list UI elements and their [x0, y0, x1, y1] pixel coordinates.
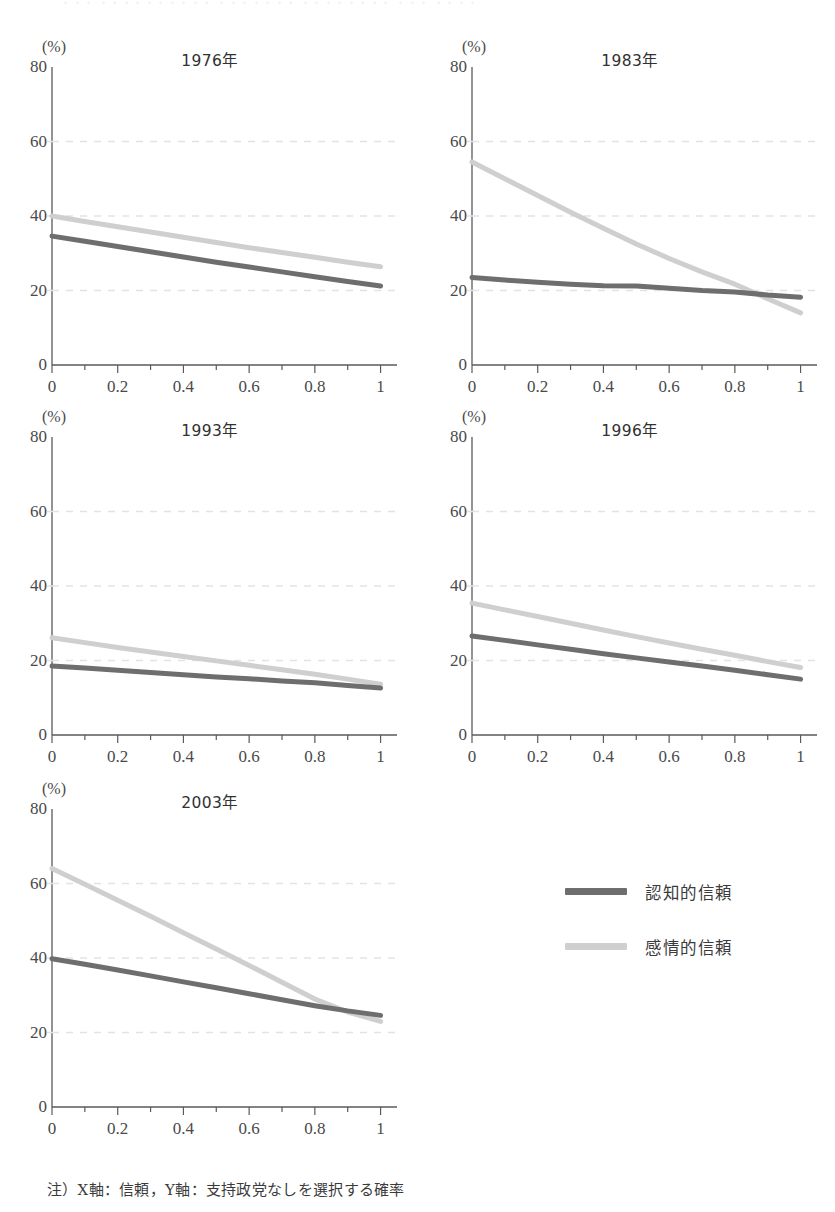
x-tick-label-0.2: 0.2	[107, 1119, 128, 1139]
y-tick-label-60: 60	[30, 501, 47, 521]
x-tick-label-1: 1	[796, 747, 805, 767]
y-tick-label-40: 40	[30, 576, 47, 596]
y-tick-label-0: 0	[39, 1097, 48, 1117]
x-tick-label-0.6: 0.6	[239, 1119, 260, 1139]
plot-svg	[52, 809, 397, 1107]
y-tick-label-0: 0	[459, 725, 468, 745]
y-tick-label-60: 60	[450, 501, 467, 521]
x-tick-label-0.8: 0.8	[724, 747, 745, 767]
y-tick-label-60: 60	[30, 873, 47, 893]
y-tick-label-40: 40	[450, 576, 467, 596]
chart-legend: 認知的信頼 感情的信頼	[565, 878, 733, 988]
page-top-bleed-text: ・・・ ・・・・・・・・・・ ・・・・・・・ ・・・・・・・・ ・・・ ・・・・	[60, 0, 760, 6]
x-tick-label-0.6: 0.6	[659, 747, 680, 767]
y-tick-label-80: 80	[450, 427, 467, 447]
plot-svg	[52, 67, 397, 365]
legend-item-affective-trust: 感情的信頼	[565, 933, 733, 960]
x-tick-label-0.4: 0.4	[173, 1119, 194, 1139]
x-tick-label-1: 1	[376, 1119, 385, 1139]
figure-page: ・・・ ・・・・・・・・・・ ・・・・・・・ ・・・・・・・・ ・・・ ・・・・…	[0, 0, 835, 1212]
plot-area: 02040608000.20.40.60.81	[472, 437, 817, 735]
plot-svg	[472, 67, 817, 365]
y-tick-label-20: 20	[30, 1022, 47, 1042]
x-tick-label-0: 0	[468, 747, 477, 767]
data-line-感情的信頼	[52, 216, 381, 267]
chart-panel-1993年: (%)1993年02040608000.20.40.60.81	[0, 380, 420, 750]
legend-label-affective-trust: 感情的信頼	[645, 935, 733, 959]
y-tick-label-20: 20	[450, 650, 467, 670]
y-tick-label-20: 20	[30, 650, 47, 670]
data-line-認知的信頼	[472, 277, 801, 297]
x-tick-label-0.8: 0.8	[304, 1119, 325, 1139]
data-line-認知的信頼	[52, 959, 381, 1016]
y-tick-label-40: 40	[30, 948, 47, 968]
plot-area: 02040608000.20.40.60.81	[472, 67, 817, 365]
plot-svg	[472, 437, 817, 735]
x-tick-label-0: 0	[48, 1119, 57, 1139]
chart-panel-2003年: (%)2003年02040608000.20.40.60.81	[0, 752, 420, 1122]
legend-item-cognitive-trust: 認知的信頼	[565, 878, 733, 905]
x-tick-label-0.2: 0.2	[527, 747, 548, 767]
y-tick-label-60: 60	[30, 131, 47, 151]
data-line-感情的信頼	[52, 869, 381, 1022]
y-tick-label-40: 40	[450, 206, 467, 226]
chart-panel-1983年: (%)1983年02040608000.20.40.60.81	[420, 10, 835, 380]
plot-area: 02040608000.20.40.60.81	[52, 437, 397, 735]
y-tick-label-60: 60	[450, 131, 467, 151]
y-tick-label-20: 20	[450, 280, 467, 300]
legend-swatch-affective-trust	[565, 943, 627, 950]
y-tick-label-0: 0	[39, 355, 48, 375]
y-tick-label-20: 20	[30, 280, 47, 300]
y-tick-label-80: 80	[30, 799, 47, 819]
y-tick-label-0: 0	[459, 355, 468, 375]
y-tick-label-80: 80	[30, 57, 47, 77]
plot-area: 02040608000.20.40.60.81	[52, 67, 397, 365]
y-tick-label-80: 80	[450, 57, 467, 77]
chart-panel-1976年: (%)1976年02040608000.20.40.60.81	[0, 10, 420, 380]
data-line-感情的信頼	[472, 162, 801, 313]
plot-area: 02040608000.20.40.60.81	[52, 809, 397, 1107]
plot-svg	[52, 437, 397, 735]
legend-swatch-cognitive-trust	[565, 888, 627, 895]
legend-label-cognitive-trust: 認知的信頼	[645, 880, 733, 904]
y-tick-label-0: 0	[39, 725, 48, 745]
chart-panel-1996年: (%)1996年02040608000.20.40.60.81	[420, 380, 835, 750]
y-tick-label-80: 80	[30, 427, 47, 447]
figure-footnote: 注）X軸：信頼，Y軸：支持政党なしを選択する確率	[47, 1178, 405, 1199]
y-tick-label-40: 40	[30, 206, 47, 226]
x-tick-label-0.4: 0.4	[593, 747, 614, 767]
